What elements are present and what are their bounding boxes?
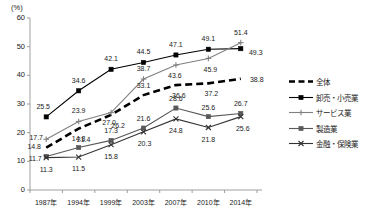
data-value-label: 25.6 — [236, 124, 250, 131]
legend-item[interactable]: 卸売・小売業 — [288, 90, 365, 106]
data-value-label: 21.8 — [202, 135, 216, 142]
y-axis-tick-label: 50 — [7, 42, 25, 51]
data-value-label: 26.7 — [234, 100, 248, 107]
data-value-label: 14.8 — [27, 142, 41, 149]
y-axis-tick-label: 20 — [7, 128, 25, 137]
data-value-label: 34.6 — [72, 76, 86, 83]
data-value-label: 51.4 — [234, 28, 248, 35]
data-value-label: 14.8 — [72, 134, 86, 141]
data-value-label: 43.6 — [168, 72, 182, 79]
x-axis-tick-label: 1994年 — [67, 197, 90, 207]
legend-marker-icon — [288, 107, 314, 118]
data-value-label: 11.5 — [72, 165, 85, 172]
legend-marker-icon — [288, 123, 314, 134]
data-value-label: 47.1 — [169, 40, 183, 47]
legend-item-label: 全体 — [316, 76, 330, 87]
data-value-label: 42.1 — [104, 55, 118, 62]
legend-marker-icon — [288, 138, 314, 149]
data-value-label: 25.5 — [36, 102, 50, 109]
legend-item[interactable]: サービス業 — [288, 105, 365, 121]
data-value-label: 24.8 — [169, 126, 183, 133]
x-axis-tick-label: 2010年 — [197, 197, 220, 207]
y-axis-tick-label: 40 — [7, 70, 25, 79]
legend-marker-icon — [288, 76, 314, 87]
data-value-label: 44.5 — [137, 48, 151, 55]
chart-legend: 全体卸売・小売業サービス業製造業金融・保険業 — [288, 74, 365, 152]
x-axis-tick-label: 1987年 — [35, 197, 58, 207]
legend-item[interactable]: 金融・保険業 — [288, 136, 365, 152]
legend-marker-icon — [288, 92, 314, 103]
y-axis-tick-label: 10 — [7, 156, 25, 165]
data-value-label: 33.1 — [137, 82, 151, 89]
data-value-label: 45.9 — [204, 66, 218, 73]
data-value-label: 21.6 — [137, 115, 151, 122]
legend-item[interactable]: 全体 — [288, 74, 365, 90]
y-axis-tick-label: 60 — [7, 13, 25, 22]
x-axis-tick-label: 2007年 — [165, 197, 188, 207]
legend-item[interactable]: 製造業 — [288, 121, 365, 137]
data-value-label: 49.1 — [202, 35, 216, 42]
data-value-label: 28.6 — [169, 95, 183, 102]
data-value-label: 49.3 — [249, 48, 263, 55]
x-axis-tick-label: 2003年 — [132, 197, 155, 207]
legend-item-label: サービス業 — [316, 107, 351, 118]
legend-item-label: 卸売・小売業 — [316, 92, 358, 103]
legend-item-label: 金融・保険業 — [316, 138, 358, 149]
data-value-label: 37.2 — [205, 90, 219, 97]
data-value-label: 20.3 — [138, 139, 152, 146]
x-axis-tick-label: 2014年 — [229, 197, 252, 207]
line-chart: (%) 0102030405060 1987年1994年1999年2003年20… — [0, 0, 365, 220]
data-value-label: 15.8 — [104, 152, 118, 159]
data-value-label: 11.7 — [29, 155, 42, 162]
data-value-label: 38.8 — [250, 75, 264, 82]
data-value-label: 11.3 — [40, 165, 53, 172]
data-value-label: 17.7 — [29, 134, 43, 141]
legend-item-label: 製造業 — [316, 123, 337, 134]
y-axis-tick-label: 0 — [7, 185, 25, 194]
x-axis-tick-label: 1999年 — [100, 197, 123, 207]
data-value-label: 25.6 — [202, 103, 216, 110]
data-value-label: 23.9 — [72, 107, 86, 114]
data-value-label: 38.7 — [137, 65, 151, 72]
y-axis-tick-label: 30 — [7, 99, 25, 108]
data-value-label: 17.3 — [104, 127, 118, 134]
